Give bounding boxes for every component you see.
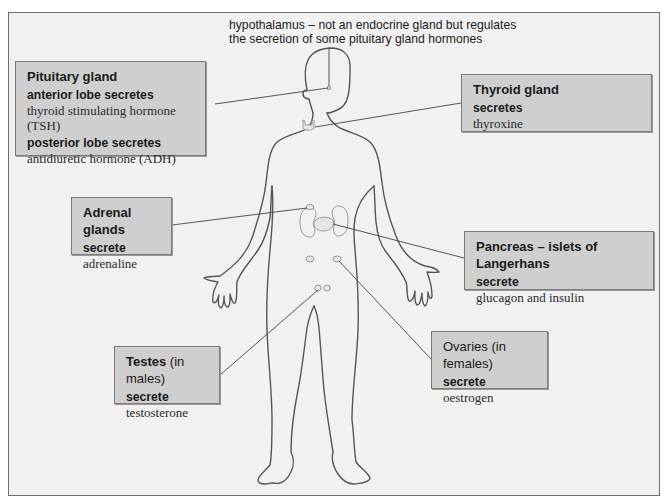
pancreas-icon [314,217,334,231]
gland-title: Thyroid gland [473,81,641,98]
pituitary-leader-line [215,88,328,104]
adrenal-gland-icon [306,205,314,210]
label-box-pituitary-gland: Pituitary gland anterior lobe secretes t… [15,61,206,156]
label-box-testes: Testes (in males) secrete testosterone [114,346,220,404]
gland-title: Pituitary gland [27,68,195,85]
caption-line-1: hypothalamus – not an endocrine gland bu… [229,18,489,32]
caption-line-2: the secretion of some pituitary gland ho… [229,32,489,46]
gland-title: Testes (in males) [126,353,209,387]
thyroid-gland-icon [303,120,314,130]
hormone-name: adrenaline [83,256,161,271]
adrenal-leader-line [172,208,307,225]
label-box-ovaries: Ovaries (in females) secrete oestrogen [431,331,548,389]
ovaries-leader-line [339,261,431,359]
gland-subheading: anterior lobe secretes [27,87,195,103]
hypothalamus-caption: hypothalamus – not an endocrine gland bu… [229,18,489,46]
gland-title: Ovaries (in females) [443,338,537,372]
gland-subheading: secrete [126,389,209,405]
label-box-adrenal-glands: Adrenal glands secrete adrenaline [71,197,172,255]
leader-lines [172,47,464,375]
right-kidney-icon [332,206,348,236]
gland-subheading: secrete [83,240,161,256]
gland-subheading: posterior lobe secretes [27,135,195,151]
organs [300,120,348,291]
hormone-name: thyroxine [473,116,641,131]
gland-subheading: secrete [476,274,643,290]
testis-icon-right [324,285,330,291]
gland-subheading: secrete [443,374,537,390]
ovary-icon-left [306,256,314,262]
gland-title: Adrenal glands [83,204,161,238]
label-box-thyroid-gland: Thyroid gland secretes thyroxine [461,74,652,132]
hormone-name: antidiuretic hormone (ADH) [27,151,195,166]
human-body-outline [204,48,439,484]
hormone-name: testosterone [126,405,209,420]
gland-subheading: secretes [473,100,641,116]
hormone-name: glucagon and insulin [476,290,643,305]
pancreas-leader-line [333,224,464,258]
hormone-name: oestrogen [443,390,537,405]
label-box-pancreas: Pancreas – islets of Langerhans secrete … [464,231,654,290]
ovary-icon-right [333,256,341,262]
hormone-name: thyroid stimulating hormone (TSH) [27,103,195,133]
gland-title: Pancreas – islets of Langerhans [476,238,643,272]
thyroid-leader-line [315,103,461,127]
